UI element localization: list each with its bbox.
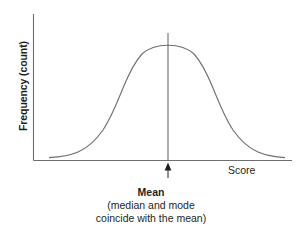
mean-arrow-head-icon <box>165 163 172 171</box>
y-axis-label: Frequency (count) <box>17 16 29 156</box>
figure-caption: Mean (median and mode coincide with the … <box>0 186 302 224</box>
x-axis-label: Score <box>228 164 255 176</box>
caption-line-1: (median and mode <box>0 199 302 211</box>
caption-title: Mean <box>0 186 302 198</box>
caption-line-2: coincide with the mean) <box>0 212 302 224</box>
bell-curve <box>49 45 285 157</box>
